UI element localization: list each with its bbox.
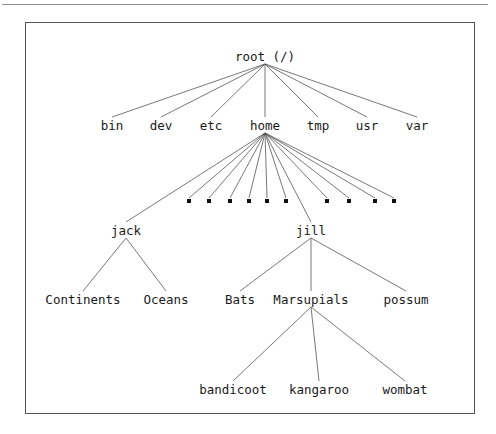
- tree-node-root: root (/): [235, 50, 295, 64]
- tree-edge-home-to-home-leaf-5: [265, 133, 267, 198]
- tree-node-home: home: [250, 119, 280, 133]
- tree-edge-root-to-var: [265, 64, 417, 117]
- tree-node-bin: bin: [101, 119, 124, 133]
- tree-edge-root-to-dev: [161, 64, 265, 117]
- tree-edge-home-to-home-leaf-7: [265, 133, 327, 198]
- tree-node-bandicoot: bandicoot: [199, 383, 267, 397]
- tree-edge-home-to-home-leaf-8: [265, 133, 349, 198]
- tree-leaf-marker-home-leaf-9: [373, 199, 377, 203]
- tree-edge-jill-to-possum: [311, 238, 406, 291]
- tree-edge-marsupials-to-bandicoot: [233, 307, 311, 381]
- tree-edge-root-to-bin: [112, 64, 265, 117]
- tree-leaf-marker-home-leaf-5: [265, 199, 269, 203]
- tree-edge-marsupials-to-wombat: [311, 307, 405, 381]
- page-canvas: root (/)bindevetchometmpusrvarjackjillCo…: [0, 0, 496, 434]
- tree-leaf-marker-home-leaf-10: [392, 199, 396, 203]
- tree-edge-root-to-tmp: [265, 64, 318, 117]
- tree-edge-home-to-home-leaf-3: [230, 133, 265, 198]
- tree-edge-root-to-etc: [211, 64, 265, 117]
- tree-node-kangaroo: kangaroo: [289, 383, 349, 397]
- tree-node-usr: usr: [356, 119, 379, 133]
- tree-edge-home-to-home-leaf-10: [265, 133, 394, 198]
- tree-node-continents: Continents: [45, 293, 120, 307]
- tree-node-tmp: tmp: [307, 119, 330, 133]
- tree-leaf-marker-home-leaf-1: [187, 199, 191, 203]
- filesystem-tree-diagram: [0, 0, 496, 434]
- tree-leaf-marker-home-leaf-3: [228, 199, 232, 203]
- tree-leaf-marker-home-leaf-6: [284, 199, 288, 203]
- tree-edge-home-to-home-leaf-6: [265, 133, 286, 198]
- tree-leaf-marker-home-leaf-7: [325, 199, 329, 203]
- tree-edge-jill-to-bats: [240, 238, 311, 291]
- tree-node-var: var: [406, 119, 429, 133]
- tree-node-jack: jack: [111, 224, 141, 238]
- tree-node-marsupials: Marsupials: [273, 293, 348, 307]
- tree-leaf-marker-home-leaf-2: [207, 199, 211, 203]
- tree-edge-home-to-jack: [126, 133, 265, 222]
- tree-node-etc: etc: [200, 119, 223, 133]
- tree-node-possum: possum: [383, 293, 428, 307]
- tree-edge-jack-to-continents: [83, 238, 126, 291]
- tree-node-dev: dev: [150, 119, 173, 133]
- tree-node-oceans: Oceans: [143, 293, 188, 307]
- tree-edge-root-to-usr: [265, 64, 367, 117]
- tree-edge-marsupials-to-kangaroo: [311, 307, 319, 381]
- tree-edge-home-to-home-leaf-1: [189, 133, 265, 198]
- tree-node-bats: Bats: [225, 293, 255, 307]
- tree-leaf-marker-home-leaf-4: [247, 199, 251, 203]
- tree-leaf-marker-home-leaf-8: [347, 199, 351, 203]
- tree-node-wombat: wombat: [382, 383, 427, 397]
- tree-edge-jack-to-oceans: [126, 238, 166, 291]
- tree-node-jill: jill: [296, 224, 326, 238]
